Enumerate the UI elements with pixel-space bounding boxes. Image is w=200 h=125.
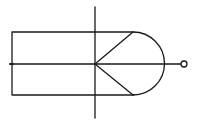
background: [0, 0, 200, 125]
diagram-canvas: [0, 0, 200, 125]
output-terminal-circle-icon: [181, 61, 187, 67]
